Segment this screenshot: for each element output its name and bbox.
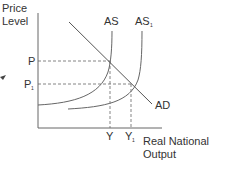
left-arrow-mark	[0, 75, 6, 80]
y-tick-label: Y	[106, 130, 114, 142]
p-tick-label: P	[28, 55, 35, 67]
as1-label-sub: 1	[150, 22, 153, 28]
p1-tick-label-sub: 1	[31, 85, 34, 91]
as-curve	[38, 31, 112, 105]
ad-label: AD	[155, 99, 170, 111]
y1-tick-label-sub: 1	[132, 137, 135, 143]
as-ad-diagram: Price Level AS AS 1 AD P P 1 Y Y 1 Real …	[0, 0, 225, 169]
y-axis-label-line2: Level	[2, 15, 28, 27]
y-axis-label-line1: Price	[2, 2, 27, 14]
as1-curve	[68, 31, 142, 109]
as-label: AS	[104, 15, 119, 27]
x-axis-label-line1: Real National	[143, 135, 209, 147]
x-axis-label-line2: Output	[143, 148, 176, 160]
as1-label: AS	[135, 15, 150, 27]
ad-curve	[69, 22, 152, 104]
